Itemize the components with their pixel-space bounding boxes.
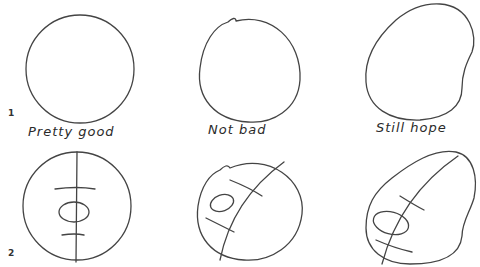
row-number-2: 2 [8,248,14,258]
face-oval [59,202,89,222]
center-line [76,152,77,262]
eye-line [55,188,95,190]
shape-circle-row1 [26,15,134,123]
eye-line [230,180,262,196]
eye-line [400,196,424,210]
label-not-bad: Not bad [208,122,266,137]
shape-potato-row1 [366,4,474,120]
center-line [220,162,284,260]
shape-egg-row2 [197,163,302,260]
center-line [382,156,458,264]
mouth-line [376,240,412,252]
face-oval [208,191,236,214]
row-number-1: 1 [8,108,14,118]
face-oval [371,208,411,239]
mouth-line [206,218,234,232]
mouth-line [62,234,84,235]
label-still-hope: Still hope [376,120,447,135]
shape-egg-row1 [199,18,300,122]
label-pretty-good: Pretty good [28,124,115,139]
